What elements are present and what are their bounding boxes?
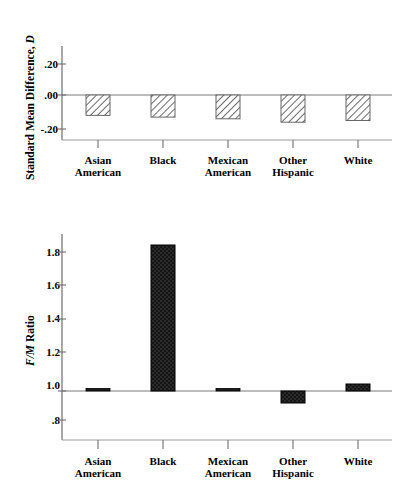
bar-bottom-asian-american <box>86 389 110 392</box>
x-tick-label-top-asian-american-line1: Asian <box>85 154 112 166</box>
x-tick-label-top-other-hispanic-line2: Hispanic <box>258 167 328 179</box>
x-tick-label-bottom-mexican-american-line1: Mexican <box>208 455 248 467</box>
x-tick-label-bottom-asian-american-line1: Asian <box>85 455 112 467</box>
chart-standard-mean-difference: Standard Mean Difference, D .20 .00 -.20 <box>0 0 401 200</box>
chart-fm-ratio: F/M Ratio 1.8 1.6 1.4 1.2 1.0 .8 <box>0 218 401 495</box>
plot-area-bottom <box>0 218 401 495</box>
x-tick-label-bottom-white: White <box>323 456 393 468</box>
bar-bottom-other-hispanic <box>281 391 305 403</box>
x-tick-label-top-white-line1: White <box>344 154 373 166</box>
x-tick-label-bottom-other-hispanic-line1: Other <box>279 455 307 467</box>
x-tick-label-top-black-line1: Black <box>150 154 177 166</box>
x-tick-label-top-black: Black <box>128 155 198 167</box>
figure-panel-pair: Standard Mean Difference, D .20 .00 -.20 <box>0 0 401 495</box>
x-tick-label-bottom-other-hispanic: Other Hispanic <box>258 456 328 479</box>
x-tick-label-top-asian-american: Asian American <box>63 155 133 178</box>
bar-top-other-hispanic <box>281 95 305 122</box>
x-tick-label-bottom-black: Black <box>128 456 198 468</box>
x-tick-label-top-mexican-american: Mexican American <box>193 155 263 178</box>
x-tick-label-top-mexican-american-line1: Mexican <box>208 154 248 166</box>
x-tick-label-top-other-hispanic: Other Hispanic <box>258 155 328 178</box>
x-tick-label-top-other-hispanic-line1: Other <box>279 154 307 166</box>
x-tick-label-top-asian-american-line2: American <box>63 167 133 179</box>
x-tick-label-bottom-asian-american-line2: American <box>63 468 133 480</box>
x-tick-label-bottom-mexican-american: Mexican American <box>193 456 263 479</box>
bar-bottom-mexican-american <box>216 389 240 392</box>
bar-top-mexican-american <box>216 95 240 119</box>
bar-bottom-white <box>346 384 370 391</box>
x-tick-label-bottom-white-line1: White <box>344 455 373 467</box>
x-tick-label-bottom-black-line1: Black <box>150 455 177 467</box>
bar-bottom-black <box>151 245 175 391</box>
x-tick-label-bottom-mexican-american-line2: American <box>193 468 263 480</box>
bar-top-white <box>346 95 370 121</box>
bar-top-asian-american <box>86 95 110 115</box>
x-tick-label-top-white: White <box>323 155 393 167</box>
x-tick-label-top-mexican-american-line2: American <box>193 167 263 179</box>
x-tick-label-bottom-other-hispanic-line2: Hispanic <box>258 468 328 480</box>
bar-top-black <box>151 95 175 117</box>
x-tick-label-bottom-asian-american: Asian American <box>63 456 133 479</box>
